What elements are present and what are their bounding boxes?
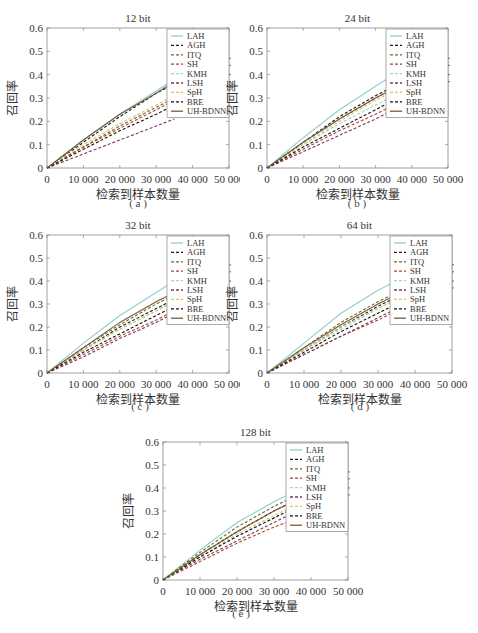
x-tick-label: 0 bbox=[264, 173, 270, 185]
y-tick-label: 0.2 bbox=[249, 115, 263, 127]
series-line-lsh bbox=[267, 309, 397, 373]
x-tick-label: 30 000 bbox=[141, 173, 172, 185]
chart-b: 24 bit00.10.20.30.40.50.6010 00020 00030… bbox=[220, 0, 478, 212]
y-tick-label: 0 bbox=[154, 574, 160, 586]
x-tick-label: 0 bbox=[264, 378, 270, 390]
y-tick-label: 0 bbox=[38, 162, 44, 174]
x-tick-label: 40 000 bbox=[400, 378, 431, 390]
x-tick-label: 20 000 bbox=[105, 378, 136, 390]
y-tick-label: 0.4 bbox=[249, 69, 263, 81]
series-line-uh-bdnn bbox=[47, 82, 174, 168]
x-tick-label: 20 000 bbox=[324, 173, 355, 185]
chart-panel-e: 128 bit00.10.20.30.40.50.6010 00020 0003… bbox=[116, 414, 374, 633]
x-tick-label: 30 000 bbox=[360, 173, 391, 185]
caption-d: ( d ) bbox=[340, 400, 380, 412]
y-tick-label: 0 bbox=[258, 367, 264, 379]
caption-c: ( c ) bbox=[120, 400, 160, 412]
chart-panel-a: 12 bit00.10.20.30.40.50.6010 00020 00030… bbox=[0, 0, 240, 212]
series-line-lsh bbox=[267, 110, 394, 168]
x-tick-label: 40 000 bbox=[296, 585, 327, 597]
y-tick-label: 0.3 bbox=[249, 298, 263, 310]
y-tick-label: 0.2 bbox=[29, 321, 43, 333]
series-line-bre bbox=[267, 304, 397, 373]
y-tick-label: 0.5 bbox=[249, 45, 263, 57]
x-tick-label: 30 000 bbox=[363, 378, 394, 390]
x-tick-label: 10 000 bbox=[68, 173, 99, 185]
chart-title: 128 bit bbox=[240, 426, 271, 438]
y-tick-label: 0.4 bbox=[29, 69, 43, 81]
chart-panel-c: 32 bit00.10.20.30.40.50.6010 00020 00030… bbox=[0, 207, 240, 417]
y-tick-label: 0.3 bbox=[29, 92, 43, 104]
y-tick-label: 0.1 bbox=[29, 139, 43, 151]
legend-label: UH-BDNN bbox=[406, 106, 445, 116]
y-tick-label: 0.3 bbox=[29, 298, 43, 310]
y-tick-label: 0 bbox=[258, 162, 264, 174]
x-tick-label: 10 000 bbox=[185, 585, 216, 597]
y-tick-label: 0.4 bbox=[249, 275, 263, 287]
chart-e: 128 bit00.10.20.30.40.50.6010 00020 0003… bbox=[116, 414, 374, 633]
y-axis-label: 召回率 bbox=[121, 493, 136, 529]
y-tick-label: 0.6 bbox=[29, 22, 43, 34]
series-line-bre bbox=[47, 105, 174, 168]
chart-d: 64 bit00.10.20.30.40.50.6010 00020 00030… bbox=[220, 207, 478, 417]
y-tick-label: 0.6 bbox=[249, 22, 263, 34]
y-tick-label: 0.6 bbox=[29, 229, 43, 241]
chart-title: 32 bit bbox=[125, 219, 150, 231]
chart-c: 32 bit00.10.20.30.40.50.6010 00020 00030… bbox=[0, 207, 240, 417]
y-tick-label: 0.1 bbox=[29, 344, 43, 356]
x-tick-label: 0 bbox=[160, 585, 166, 597]
legend: LAHAGHITQSHKMHLSHSpHBREUH-BDNN bbox=[286, 443, 348, 532]
y-axis-label: 召回率 bbox=[225, 80, 240, 116]
y-tick-label: 0.6 bbox=[249, 229, 263, 241]
x-tick-label: 50 000 bbox=[333, 585, 364, 597]
caption-e: ( e ) bbox=[221, 607, 261, 619]
series-line-kmh bbox=[47, 82, 174, 168]
x-tick-label: 40 000 bbox=[397, 173, 428, 185]
y-tick-label: 0.1 bbox=[145, 551, 159, 563]
x-tick-label: 50 000 bbox=[433, 173, 464, 185]
series-line-lsh bbox=[47, 119, 174, 168]
y-tick-label: 0.3 bbox=[249, 92, 263, 104]
y-tick-label: 0.4 bbox=[29, 275, 43, 287]
x-tick-label: 10 000 bbox=[289, 378, 320, 390]
series-line-itq bbox=[163, 497, 293, 580]
y-axis-label: 召回率 bbox=[225, 286, 240, 322]
legend: LAHAGHITQSHKMHLSHSpHBREUH-BDNN bbox=[386, 29, 448, 118]
x-tick-label: 10 000 bbox=[68, 378, 99, 390]
x-tick-label: 20 000 bbox=[326, 378, 357, 390]
y-tick-label: 0.2 bbox=[29, 115, 43, 127]
x-tick-label: 40 000 bbox=[177, 173, 208, 185]
legend: LAHAGHITQSHKMHLSHSpHBREUH-BDNN bbox=[390, 236, 452, 325]
chart-panel-d: 64 bit00.10.20.30.40.50.6010 00020 00030… bbox=[220, 207, 478, 417]
x-tick-label: 0 bbox=[44, 173, 50, 185]
x-tick-label: 20 000 bbox=[222, 585, 253, 597]
legend-label: UH-BDNN bbox=[410, 313, 449, 323]
chart-panel-b: 24 bit00.10.20.30.40.50.6010 00020 00030… bbox=[220, 0, 478, 212]
x-tick-label: 0 bbox=[44, 378, 50, 390]
series-line-sh bbox=[47, 311, 174, 373]
y-axis-label: 召回率 bbox=[5, 286, 20, 322]
y-tick-label: 0.5 bbox=[145, 459, 159, 471]
chart-title: 64 bit bbox=[347, 219, 372, 231]
chart-title: 12 bit bbox=[125, 12, 150, 24]
y-tick-label: 0.6 bbox=[145, 436, 159, 448]
x-tick-label: 50 000 bbox=[437, 378, 468, 390]
y-tick-label: 0.2 bbox=[145, 528, 159, 540]
y-tick-label: 0.5 bbox=[249, 252, 263, 264]
y-tick-label: 0.1 bbox=[249, 344, 263, 356]
y-tick-label: 0.5 bbox=[29, 45, 43, 57]
legend-label: UH-BDNN bbox=[306, 520, 345, 530]
y-axis-label: 召回率 bbox=[5, 80, 20, 116]
y-tick-label: 0 bbox=[38, 367, 44, 379]
x-tick-label: 40 000 bbox=[177, 378, 208, 390]
chart-a: 12 bit00.10.20.30.40.50.6010 00020 00030… bbox=[0, 0, 240, 212]
x-tick-label: 30 000 bbox=[259, 585, 290, 597]
x-tick-label: 30 000 bbox=[141, 378, 172, 390]
y-tick-label: 0.1 bbox=[249, 139, 263, 151]
y-tick-label: 0.2 bbox=[249, 321, 263, 333]
x-tick-label: 20 000 bbox=[105, 173, 136, 185]
x-tick-label: 10 000 bbox=[288, 173, 319, 185]
y-tick-label: 0.5 bbox=[29, 252, 43, 264]
chart-title: 24 bit bbox=[345, 12, 370, 24]
series-line-sh bbox=[267, 105, 394, 168]
